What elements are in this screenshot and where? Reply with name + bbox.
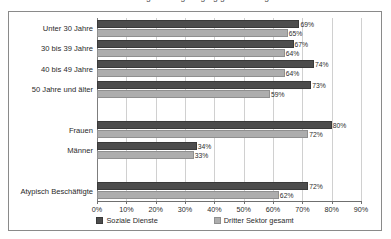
x-tick-mark bbox=[126, 201, 127, 204]
category-row-spacer bbox=[97, 160, 361, 180]
clipped-title-text: Abbildung: Anteil geringfügig Beschäftig… bbox=[111, 0, 279, 2]
clipped-title-remnant: Abbildung: Anteil geringfügig Beschäftig… bbox=[0, 0, 391, 9]
category-label: 50 Jahre und älter bbox=[32, 85, 93, 94]
x-tick-mark bbox=[156, 201, 157, 204]
category-row: 30 bis 39 Jahre67%64% bbox=[97, 38, 361, 58]
bar-value-label: 73% bbox=[312, 81, 326, 88]
category-label: Frauen bbox=[69, 125, 93, 134]
legend-item-dritter-sektor-gesamt[interactable]: Dritter Sektor gesamt bbox=[214, 216, 294, 225]
legend-label: Dritter Sektor gesamt bbox=[224, 216, 294, 225]
x-axis-line bbox=[97, 201, 361, 202]
x-tick-label: 10% bbox=[119, 205, 133, 214]
chart-frame: Unter 30 Jahre69%65%30 bis 39 Jahre67%64… bbox=[8, 11, 382, 231]
bar-value-label: 64% bbox=[286, 70, 300, 77]
bar-value-label: 65% bbox=[289, 29, 303, 36]
bar-soziale-dienste[interactable]: 74% bbox=[97, 60, 314, 68]
category-label: Atypisch Beschäftigte bbox=[20, 186, 93, 195]
plot-area: Unter 30 Jahre69%65%30 bis 39 Jahre67%64… bbox=[97, 18, 361, 201]
category-row: 40 bis 49 Jahre74%64% bbox=[97, 59, 361, 79]
bar-soziale-dienste[interactable]: 67% bbox=[97, 40, 294, 48]
chart-page: Abbildung: Anteil geringfügig Beschäftig… bbox=[0, 0, 391, 239]
category-label: 30 bis 39 Jahre bbox=[41, 44, 93, 53]
chart-legend: Soziale Dienste Dritter Sektor gesamt bbox=[9, 216, 381, 225]
bar-value-label: 67% bbox=[295, 40, 309, 47]
category-row: Männer34%33% bbox=[97, 140, 361, 160]
x-tick-label: 30% bbox=[178, 205, 192, 214]
bar-value-label: 72% bbox=[309, 131, 323, 138]
x-tick-mark bbox=[302, 201, 303, 204]
x-tick-mark bbox=[273, 201, 274, 204]
x-tick-label: 90% bbox=[354, 205, 368, 214]
bar-soziale-dienste[interactable]: 73% bbox=[97, 81, 311, 89]
legend-label: Soziale Dienste bbox=[106, 216, 157, 225]
legend-swatch-icon bbox=[96, 217, 103, 224]
bar-dritter-sektor-gesamt[interactable]: 33% bbox=[97, 151, 194, 159]
x-tick-label: 20% bbox=[148, 205, 162, 214]
category-row: Atypisch Beschäftigte72%62% bbox=[97, 181, 361, 201]
bar-value-label: 69% bbox=[300, 20, 314, 27]
bar-dritter-sektor-gesamt[interactable]: 64% bbox=[97, 69, 285, 77]
bar-soziale-dienste[interactable]: 80% bbox=[97, 121, 332, 129]
x-tick-mark bbox=[361, 201, 362, 204]
bar-value-label: 80% bbox=[333, 122, 347, 129]
bar-dritter-sektor-gesamt[interactable]: 64% bbox=[97, 49, 285, 57]
bar-dritter-sektor-gesamt[interactable]: 62% bbox=[97, 191, 279, 199]
bar-value-label: 33% bbox=[195, 151, 209, 158]
x-tick-mark bbox=[185, 201, 186, 204]
x-tick-label: 60% bbox=[266, 205, 280, 214]
x-tick-mark bbox=[97, 201, 98, 204]
x-tick-mark bbox=[214, 201, 215, 204]
x-tick-label: 40% bbox=[207, 205, 221, 214]
x-tick-label: 50% bbox=[236, 205, 250, 214]
category-label: Unter 30 Jahre bbox=[43, 24, 93, 33]
bar-soziale-dienste[interactable]: 72% bbox=[97, 182, 308, 190]
bar-value-label: 62% bbox=[280, 192, 294, 199]
bar-dritter-sektor-gesamt[interactable]: 65% bbox=[97, 29, 288, 37]
bar-dritter-sektor-gesamt[interactable]: 72% bbox=[97, 130, 308, 138]
category-label: Männer bbox=[67, 146, 93, 155]
category-row: Unter 30 Jahre69%65% bbox=[97, 18, 361, 38]
x-tick-label: 70% bbox=[295, 205, 309, 214]
bar-dritter-sektor-gesamt[interactable]: 59% bbox=[97, 90, 270, 98]
x-tick-mark bbox=[332, 201, 333, 204]
legend-swatch-icon bbox=[214, 217, 221, 224]
legend-item-soziale-dienste[interactable]: Soziale Dienste bbox=[96, 216, 157, 225]
bar-value-label: 34% bbox=[198, 142, 212, 149]
bar-value-label: 74% bbox=[315, 61, 329, 68]
category-label: 40 bis 49 Jahre bbox=[41, 64, 93, 73]
bar-soziale-dienste[interactable]: 69% bbox=[97, 20, 299, 28]
category-row: 50 Jahre und älter73%59% bbox=[97, 79, 361, 99]
category-row: Frauen80%72% bbox=[97, 120, 361, 140]
bar-value-label: 64% bbox=[286, 49, 300, 56]
x-tick-mark bbox=[244, 201, 245, 204]
bar-value-label: 72% bbox=[309, 183, 323, 190]
x-tick-label: 80% bbox=[324, 205, 338, 214]
bar-soziale-dienste[interactable]: 34% bbox=[97, 142, 197, 150]
category-row-spacer bbox=[97, 99, 361, 119]
x-tick-label: 0% bbox=[92, 205, 102, 214]
bar-value-label: 59% bbox=[271, 90, 285, 97]
gridline-90 bbox=[361, 18, 362, 201]
